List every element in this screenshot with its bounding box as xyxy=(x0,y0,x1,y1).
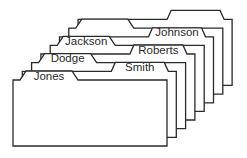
card-outline xyxy=(13,71,167,146)
card-tab-label: Roberts xyxy=(138,44,179,56)
card-tab-label: Dodge xyxy=(51,52,85,64)
card-tab-label: Jones xyxy=(34,70,65,82)
index-card-stack: JohnsonJacksonRobertsDodgeSmithJones xyxy=(0,0,247,158)
card-tab-label: Smith xyxy=(125,61,154,73)
card-tab-label: Johnson xyxy=(155,26,198,38)
index-card: Jones xyxy=(13,70,167,147)
card-tab-label: Jackson xyxy=(65,35,107,47)
